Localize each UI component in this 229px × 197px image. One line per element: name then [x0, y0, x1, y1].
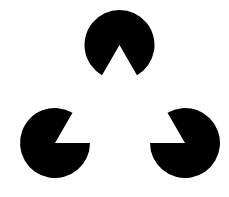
kanizsa-svg: [0, 0, 229, 197]
kanizsa-figure: [0, 0, 229, 197]
